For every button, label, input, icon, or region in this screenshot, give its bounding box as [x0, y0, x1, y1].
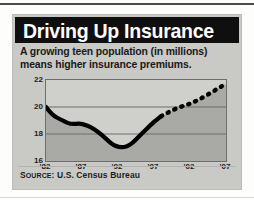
- y-tick-22: 22: [13, 76, 43, 84]
- source-note: SOURCE: U.S. Census Bureau: [20, 170, 140, 181]
- page-canvas: Driving Up Insurance A growing teen popu…: [0, 0, 254, 200]
- x-tick-2007: '07: [212, 163, 238, 171]
- y-tick-18: 18: [13, 130, 43, 138]
- x-tick-2002: '02: [176, 163, 202, 171]
- page-bottom-rule: [0, 197, 254, 198]
- plot-svg: [46, 80, 226, 161]
- x-tick-1997: '97: [140, 163, 166, 171]
- title-banner: Driving Up Insurance: [15, 17, 239, 43]
- y-tick-20: 20: [13, 103, 43, 111]
- source-divider: [18, 166, 236, 167]
- page-top-rule: [0, 3, 254, 5]
- subtitle-line-2: means higher insurance premiums.: [20, 58, 227, 71]
- plot-area: [45, 79, 227, 162]
- source-attribution: U.S. Census Bureau: [57, 170, 140, 180]
- source-label-ource: OURCE: [26, 172, 52, 179]
- page-title: Driving Up Insurance: [23, 18, 214, 43]
- subtitle-line-1: A growing teen population (in millions): [20, 45, 227, 58]
- infographic-card: Driving Up Insurance A growing teen popu…: [12, 14, 242, 190]
- subtitle: A growing teen population (in millions) …: [20, 45, 238, 70]
